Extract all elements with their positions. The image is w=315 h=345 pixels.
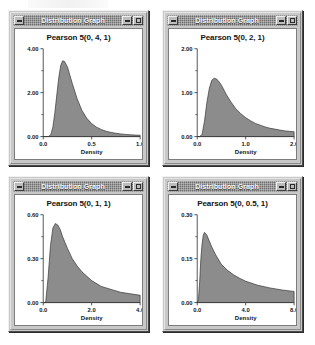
svg-text:0.00: 0.00 bbox=[181, 300, 192, 306]
svg-text:0.30: 0.30 bbox=[27, 256, 38, 262]
titlebar-buttons-3 bbox=[122, 182, 143, 191]
maximize-button-1[interactable] bbox=[133, 16, 143, 25]
chart-title-2: Pearson 5(0, 2, 1) bbox=[169, 33, 296, 42]
svg-text:2.00: 2.00 bbox=[27, 90, 38, 96]
svg-text:0.00: 0.00 bbox=[181, 134, 192, 140]
titlebar-buttons-2 bbox=[276, 16, 297, 25]
maximize-button-4[interactable] bbox=[287, 182, 297, 191]
system-menu-button-2[interactable] bbox=[168, 16, 178, 25]
svg-text:0.15: 0.15 bbox=[181, 256, 193, 262]
window-title-1: Distribution Graph bbox=[24, 17, 122, 24]
svg-text:Density: Density bbox=[81, 315, 103, 321]
window-inner-frame-4: Distribution Graph Pearson 5(0, 0.5, 1) … bbox=[164, 178, 301, 330]
svg-text:1.0: 1.0 bbox=[242, 141, 250, 147]
chart-client-area-2: Pearson 5(0, 2, 1) 0.001.002.000.01.02.0… bbox=[168, 28, 297, 160]
graph-window-grid: Distribution Graph Pearson 5(0, 4, 1) 0.… bbox=[0, 0, 315, 345]
density-plot-2: 0.001.002.000.01.02.0Density bbox=[169, 45, 296, 159]
minimize-button-4[interactable] bbox=[276, 182, 286, 191]
svg-text:0.60: 0.60 bbox=[27, 212, 38, 218]
distribution-graph-window-2[interactable]: Distribution Graph Pearson 5(0, 2, 1) 0.… bbox=[162, 10, 303, 166]
grid-cell-top-left: Distribution Graph Pearson 5(0, 4, 1) 0.… bbox=[0, 0, 158, 172]
grid-cell-bottom-right: Distribution Graph Pearson 5(0, 0.5, 1) … bbox=[158, 172, 315, 345]
titlebar-buttons-1 bbox=[122, 16, 143, 25]
minimize-button-1[interactable] bbox=[122, 16, 132, 25]
titlebar-1[interactable]: Distribution Graph bbox=[13, 15, 144, 26]
grid-cell-top-right: Distribution Graph Pearson 5(0, 2, 1) 0.… bbox=[158, 0, 315, 172]
minimize-button-3[interactable] bbox=[122, 182, 132, 191]
svg-text:1.0: 1.0 bbox=[136, 141, 142, 147]
svg-text:0.00: 0.00 bbox=[27, 134, 38, 140]
distribution-graph-window-1[interactable]: Distribution Graph Pearson 5(0, 4, 1) 0.… bbox=[8, 10, 149, 166]
density-plot-1: 0.002.004.000.00.51.0Density bbox=[15, 45, 142, 159]
window-title-4: Distribution Graph bbox=[178, 183, 276, 190]
window-title-3: Distribution Graph bbox=[24, 183, 122, 190]
svg-text:0.5: 0.5 bbox=[88, 141, 97, 147]
svg-text:2.00: 2.00 bbox=[181, 46, 192, 52]
system-menu-button-1[interactable] bbox=[14, 16, 24, 25]
window-inner-frame-2: Distribution Graph Pearson 5(0, 2, 1) 0.… bbox=[164, 12, 301, 164]
svg-text:0.0: 0.0 bbox=[193, 307, 201, 313]
svg-text:0.0: 0.0 bbox=[193, 141, 201, 147]
plot-area-4: 0.000.150.300.04.08.0Density bbox=[169, 211, 296, 325]
svg-text:0.00: 0.00 bbox=[27, 300, 38, 306]
distribution-graph-window-3[interactable]: Distribution Graph Pearson 5(0, 1, 1) 0.… bbox=[8, 176, 149, 332]
chart-title-1: Pearson 5(0, 4, 1) bbox=[15, 33, 142, 42]
svg-text:0.0: 0.0 bbox=[39, 307, 47, 313]
svg-text:4.00: 4.00 bbox=[27, 46, 38, 52]
chart-client-area-4: Pearson 5(0, 0.5, 1) 0.000.150.300.04.08… bbox=[168, 194, 297, 326]
window-inner-frame-1: Distribution Graph Pearson 5(0, 4, 1) 0.… bbox=[10, 12, 147, 164]
window-title-2: Distribution Graph bbox=[178, 17, 276, 24]
system-menu-button-4[interactable] bbox=[168, 182, 178, 191]
minimize-button-2[interactable] bbox=[276, 16, 286, 25]
chart-client-area-3: Pearson 5(0, 1, 1) 0.000.300.600.02.04.0… bbox=[14, 194, 143, 326]
svg-text:1.00: 1.00 bbox=[181, 90, 192, 96]
svg-text:4.0: 4.0 bbox=[136, 307, 142, 313]
titlebar-3[interactable]: Distribution Graph bbox=[13, 181, 144, 192]
plot-area-2: 0.001.002.000.01.02.0Density bbox=[169, 45, 296, 159]
svg-text:2.0: 2.0 bbox=[88, 307, 96, 313]
density-plot-3: 0.000.300.600.02.04.0Density bbox=[15, 211, 142, 325]
plot-area-1: 0.002.004.000.00.51.0Density bbox=[15, 45, 142, 159]
system-menu-button-3[interactable] bbox=[14, 182, 24, 191]
svg-text:8.0: 8.0 bbox=[290, 307, 296, 313]
titlebar-4[interactable]: Distribution Graph bbox=[167, 181, 298, 192]
svg-text:0.0: 0.0 bbox=[39, 141, 47, 147]
chart-title-4: Pearson 5(0, 0.5, 1) bbox=[169, 199, 296, 208]
svg-text:Density: Density bbox=[235, 149, 257, 155]
svg-text:0.30: 0.30 bbox=[181, 212, 192, 218]
chart-title-3: Pearson 5(0, 1, 1) bbox=[15, 199, 142, 208]
svg-text:4.0: 4.0 bbox=[242, 307, 250, 313]
window-inner-frame-3: Distribution Graph Pearson 5(0, 1, 1) 0.… bbox=[10, 178, 147, 330]
density-plot-4: 0.000.150.300.04.08.0Density bbox=[169, 211, 296, 325]
chart-client-area-1: Pearson 5(0, 4, 1) 0.002.004.000.00.51.0… bbox=[14, 28, 143, 160]
distribution-graph-window-4[interactable]: Distribution Graph Pearson 5(0, 0.5, 1) … bbox=[162, 176, 303, 332]
maximize-button-2[interactable] bbox=[287, 16, 297, 25]
plot-area-3: 0.000.300.600.02.04.0Density bbox=[15, 211, 142, 325]
grid-cell-bottom-left: Distribution Graph Pearson 5(0, 1, 1) 0.… bbox=[0, 172, 158, 345]
svg-text:2.0: 2.0 bbox=[290, 141, 296, 147]
svg-text:Density: Density bbox=[81, 149, 103, 155]
titlebar-2[interactable]: Distribution Graph bbox=[167, 15, 298, 26]
maximize-button-3[interactable] bbox=[133, 182, 143, 191]
titlebar-buttons-4 bbox=[276, 182, 297, 191]
svg-text:Density: Density bbox=[235, 315, 257, 321]
